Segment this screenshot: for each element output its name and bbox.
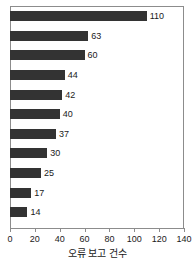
bar bbox=[10, 11, 147, 21]
bar bbox=[10, 207, 27, 217]
bar-row: 37 bbox=[10, 129, 184, 139]
x-axis-tick bbox=[10, 228, 11, 232]
x-axis-line bbox=[10, 228, 184, 229]
x-axis-tick bbox=[159, 228, 160, 232]
bar bbox=[10, 188, 31, 198]
bar-row: 14 bbox=[10, 207, 184, 217]
bar-value-label: 37 bbox=[59, 129, 69, 138]
bar-value-label: 44 bbox=[68, 70, 78, 79]
bar-chart: 11063604442403730251714 0204060801001201… bbox=[0, 0, 195, 265]
x-axis-tick-label: 60 bbox=[80, 234, 90, 244]
bar-value-label: 40 bbox=[63, 110, 73, 119]
bar-row: 63 bbox=[10, 31, 184, 41]
x-axis-tick bbox=[184, 228, 185, 232]
bar-value-label: 63 bbox=[91, 31, 101, 40]
bar bbox=[10, 129, 56, 139]
bar bbox=[10, 109, 60, 119]
x-axis-tick-label: 120 bbox=[152, 234, 167, 244]
x-axis-tick-label: 100 bbox=[127, 234, 142, 244]
bar-value-label: 14 bbox=[30, 208, 40, 217]
bar-row: 25 bbox=[10, 168, 184, 178]
x-axis-tick bbox=[109, 228, 110, 232]
x-axis-title: 오류 보고 건수 bbox=[0, 248, 195, 260]
bar-value-label: 25 bbox=[44, 169, 54, 178]
bar-row: 60 bbox=[10, 50, 184, 60]
bar-row: 42 bbox=[10, 90, 184, 100]
bar bbox=[10, 148, 47, 158]
x-axis-tick bbox=[134, 228, 135, 232]
x-axis-tick-label: 0 bbox=[7, 234, 12, 244]
bar-value-label: 30 bbox=[50, 149, 60, 158]
bar-row: 17 bbox=[10, 188, 184, 198]
x-axis-tick bbox=[35, 228, 36, 232]
x-axis-tick-label: 80 bbox=[104, 234, 114, 244]
bar-row: 44 bbox=[10, 70, 184, 80]
x-axis-tick bbox=[85, 228, 86, 232]
bar bbox=[10, 70, 65, 80]
bar-row: 40 bbox=[10, 109, 184, 119]
bar-value-label: 60 bbox=[88, 51, 98, 60]
bar-value-label: 42 bbox=[65, 90, 75, 99]
bar-value-label: 17 bbox=[34, 188, 44, 197]
bars-area: 11063604442403730251714 bbox=[10, 6, 184, 228]
x-axis-tick-label: 40 bbox=[55, 234, 65, 244]
bar bbox=[10, 168, 41, 178]
bar-row: 110 bbox=[10, 11, 184, 21]
x-axis-tick-label: 20 bbox=[30, 234, 40, 244]
bar-value-label: 110 bbox=[150, 12, 164, 21]
bar-row: 30 bbox=[10, 148, 184, 158]
x-axis-tick-label: 140 bbox=[176, 234, 191, 244]
bar bbox=[10, 31, 88, 41]
bar bbox=[10, 50, 85, 60]
x-axis-tick bbox=[60, 228, 61, 232]
bar bbox=[10, 90, 62, 100]
